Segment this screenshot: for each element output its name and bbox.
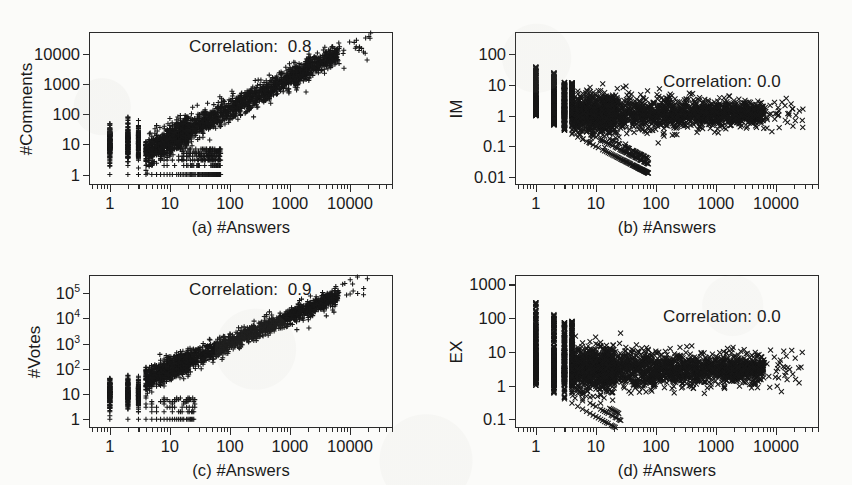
figure-scatter-matrix: 110100100010000110100100010000#Comments(… (0, 0, 852, 485)
panel-d: 11010010001000010001001010.1EX(d) #Answe… (0, 0, 852, 485)
scatter-points-d (0, 0, 852, 485)
